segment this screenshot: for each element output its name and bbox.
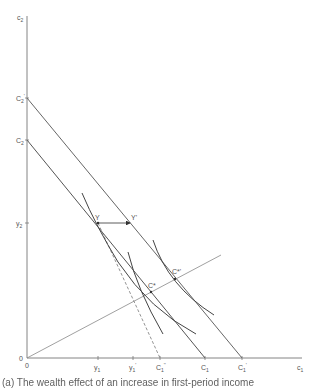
label-C1-prime: C1'	[238, 362, 247, 373]
label-C2: C2	[16, 137, 24, 146]
budget-line-upper	[27, 98, 242, 358]
label-origin: 0	[25, 362, 29, 369]
indifference-curve-C-star-prime	[153, 240, 214, 315]
label-point-C-star-prime: C*'	[172, 268, 181, 275]
label-origin-left: 0	[19, 355, 23, 362]
x-axis-label: c1	[297, 364, 304, 373]
point-C-star	[150, 291, 152, 293]
y-axis-label: c2	[17, 14, 24, 23]
label-C2-prime: C2'	[16, 93, 25, 104]
label-y1-prime: y1'	[129, 362, 136, 373]
budget-line-lower	[27, 140, 205, 358]
label-point-C-star: C*	[148, 282, 156, 289]
label-point-Y-prime: Y'	[131, 214, 137, 221]
label-C1-double-prime: C1''	[156, 362, 166, 373]
label-point-Y: Y	[95, 214, 100, 221]
label-y2: y2	[16, 220, 23, 229]
point-Y	[97, 222, 100, 225]
figure-caption: (a) The wealth effect of an increase in …	[2, 377, 314, 388]
point-C-star-prime	[174, 278, 176, 280]
indifference-curve-C-star	[128, 252, 163, 334]
consumption-diagram: c2 c1 C2' C2 y2 0 0 y1 y1' C1'' C1 C1' Y…	[0, 0, 316, 388]
label-y1: y1	[94, 364, 101, 373]
label-C1: C1	[201, 364, 209, 373]
